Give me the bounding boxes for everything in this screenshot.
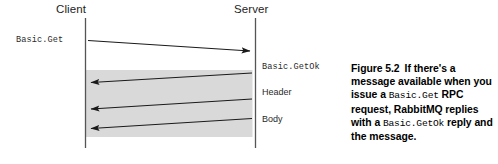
message-label-basic-getok: Basic.GetOk [262, 62, 320, 72]
message-label-body: Body [262, 114, 283, 124]
arrow-basic-get [88, 41, 250, 52]
message-label-basic-get: Basic.Get [16, 35, 63, 45]
figure-page: Client Server Basic.Get Basic.GetOk Head… [0, 0, 498, 164]
actor-label-client: Client [56, 3, 86, 15]
caption-code-basic-get: Basic.Get [389, 90, 439, 101]
figure-caption: Figure 5.2If there's a message available… [351, 62, 495, 143]
figure-number: Figure 5.2 [351, 63, 400, 74]
sequence-diagram-canvas [0, 0, 340, 164]
message-label-header: Header [262, 87, 292, 97]
sequence-diagram: Client Server Basic.Get Basic.GetOk Head… [0, 0, 340, 164]
caption-code-basic-getok: Basic.GetOk [383, 118, 444, 129]
actor-label-server: Server [234, 3, 268, 15]
